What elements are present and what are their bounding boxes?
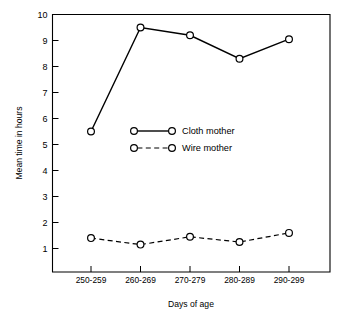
x-tick-label-250-259: 250-259 <box>76 275 107 285</box>
data-point <box>187 233 194 240</box>
y-tick-label-4: 4 <box>42 166 47 176</box>
data-point <box>286 36 293 43</box>
legend-label: Cloth mother <box>182 126 235 136</box>
data-point <box>137 241 144 248</box>
y-tick-label-9: 9 <box>42 36 47 46</box>
x-axis-tick-labels: 250-259260-269270-279280-289290-299 <box>76 275 305 285</box>
data-point <box>236 239 243 246</box>
x-tick-label-270-279: 270-279 <box>175 275 206 285</box>
data-point <box>236 55 243 62</box>
x-tick-label-280-289: 280-289 <box>224 275 255 285</box>
line-chart: 12345678910 250-259260-269270-279280-289… <box>0 0 342 326</box>
legend-entry-cloth-mother[interactable]: Cloth mother <box>131 126 235 136</box>
x-axis-ticks <box>91 266 289 272</box>
series-wire-mother <box>88 230 293 249</box>
y-axis-title: Mean time in hours <box>14 106 24 179</box>
y-axis-ticks <box>53 15 59 249</box>
y-tick-label-1: 1 <box>42 244 47 254</box>
y-axis-tick-labels: 12345678910 <box>37 10 47 254</box>
y-tick-label-6: 6 <box>42 114 47 124</box>
y-tick-label-5: 5 <box>42 140 47 150</box>
chart-legend: Cloth motherWire mother <box>131 126 235 153</box>
x-axis-title: Days of age <box>168 299 214 309</box>
x-tick-label-290-299: 290-299 <box>274 275 305 285</box>
y-tick-label-7: 7 <box>42 88 47 98</box>
series-cloth-mother <box>88 24 293 135</box>
x-tick-label-260-269: 260-269 <box>125 275 156 285</box>
legend-marker <box>131 128 138 135</box>
legend-label: Wire mother <box>182 143 232 153</box>
data-point <box>88 128 95 135</box>
data-point <box>187 32 194 39</box>
y-tick-label-10: 10 <box>37 10 47 20</box>
y-tick-label-8: 8 <box>42 62 47 72</box>
data-point <box>286 230 293 237</box>
data-point <box>88 235 95 242</box>
y-tick-label-3: 3 <box>42 192 47 202</box>
legend-marker <box>131 145 138 152</box>
y-tick-label-2: 2 <box>42 218 47 228</box>
legend-marker <box>169 128 176 135</box>
legend-entry-wire-mother[interactable]: Wire mother <box>131 143 232 153</box>
chart-figure: 12345678910 250-259260-269270-279280-289… <box>0 0 342 326</box>
series-line <box>91 28 289 132</box>
data-point <box>137 24 144 31</box>
legend-marker <box>169 145 176 152</box>
